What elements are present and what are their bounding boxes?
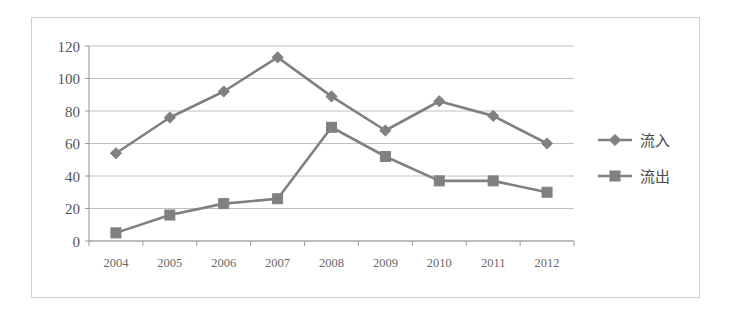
x-axis-group: 200420052006200720082009201020112012 [89, 241, 574, 270]
y-axis-label-100: 100 [58, 71, 81, 87]
line-chart[interactable]: 0204060801001202004200520062007200820092… [32, 18, 701, 299]
y-axis-label-20: 20 [65, 201, 80, 217]
legend-diamond-marker[interactable] [609, 134, 620, 145]
legend-item-流入[interactable]: 流入 [598, 132, 670, 150]
data-point-流出-2007[interactable] [273, 194, 283, 204]
chart-plot-area: 0204060801001202004200520062007200820092… [32, 18, 701, 299]
y-axis-label-40: 40 [65, 169, 80, 185]
data-point-流出-2008[interactable] [327, 122, 337, 132]
series-line-流入 [116, 57, 547, 153]
data-point-流入-2012[interactable] [541, 138, 552, 149]
legend-label-流入: 流入 [640, 132, 670, 150]
y-axis-label-0: 0 [73, 234, 81, 250]
x-axis-label-2011: 2011 [481, 256, 506, 270]
x-axis-label-2004: 2004 [103, 256, 129, 270]
data-point-流出-2004[interactable] [111, 228, 121, 238]
y-axis-label-60: 60 [65, 136, 80, 152]
x-axis-label-2012: 2012 [535, 256, 560, 270]
data-point-流出-2010[interactable] [434, 176, 444, 186]
data-point-流出-2012[interactable] [542, 187, 552, 197]
x-axis-label-2005: 2005 [157, 256, 182, 270]
x-axis-label-2006: 2006 [211, 256, 236, 270]
x-axis-label-2010: 2010 [427, 256, 452, 270]
data-point-流出-2005[interactable] [165, 210, 175, 220]
y-axis-label-80: 80 [65, 104, 80, 120]
data-point-流入-2011[interactable] [488, 110, 499, 121]
legend-square-marker[interactable] [610, 171, 620, 181]
data-point-流出-2009[interactable] [380, 152, 390, 162]
data-point-流出-2006[interactable] [219, 199, 229, 209]
x-axis-label-2007: 2007 [265, 256, 290, 270]
chart-frame: 0204060801001202004200520062007200820092… [31, 17, 700, 298]
x-axis-label-2009: 2009 [373, 256, 398, 270]
data-point-流出-2011[interactable] [488, 176, 498, 186]
chart-legend: 流入流出 [598, 132, 670, 186]
legend-item-流出[interactable]: 流出 [598, 168, 670, 186]
series-流出 [111, 122, 552, 238]
gridlines-group: 020406080100120 [58, 39, 575, 250]
legend-label-流出: 流出 [640, 168, 670, 186]
data-point-流入-2010[interactable] [434, 96, 445, 107]
x-axis-label-2008: 2008 [319, 256, 344, 270]
series-流入 [110, 52, 552, 159]
y-axis-label-120: 120 [58, 39, 81, 55]
